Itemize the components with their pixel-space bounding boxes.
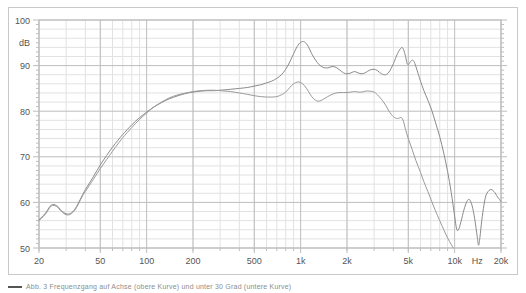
x-tick-label: 20k [494,256,509,266]
minor-horizontal-gridlines [39,29,501,239]
y-tick-label: 100 [15,16,30,26]
frequency-response-chart: 20501002005001k2k5k10k20k 5060708090100 … [9,8,517,274]
x-tick-label: 5k [404,256,414,266]
x-axis-unit-label: Hz [472,256,483,266]
x-tick-label: 1k [296,256,306,266]
y-axis-tick-labels: 5060708090100 [15,16,30,254]
y-axis-unit-label: dB [19,38,30,48]
x-tick-label: 2k [342,256,352,266]
figure-caption-text: Abb. 3 Frequenzgang auf Achse (obere Kur… [26,283,291,290]
axis-tick-marks [33,20,507,253]
y-tick-label: 90 [20,61,30,71]
x-tick-label: 50 [95,256,105,266]
y-tick-label: 60 [20,198,30,208]
major-vertical-gridlines [39,20,501,248]
x-tick-label: 500 [247,256,262,266]
x-tick-label: 200 [185,256,200,266]
curve-legend-swatch [8,286,22,288]
figure-caption: Abb. 3 Frequenzgang auf Achse (obere Kur… [8,281,518,293]
plot-border [39,20,501,248]
x-tick-label: 20 [34,256,44,266]
frequency-response-figure: 20501002005001k2k5k10k20k 5060708090100 … [0,0,526,293]
curve-on-axis [39,42,501,246]
curve-off-axis [39,82,453,248]
x-tick-label: 10k [447,256,462,266]
x-tick-label: 100 [139,256,154,266]
y-tick-label: 80 [20,107,30,117]
y-tick-label: 70 [20,152,30,162]
curve-group [39,42,501,248]
chart-frame: 20501002005001k2k5k10k20k 5060708090100 … [8,7,518,275]
x-axis-tick-labels: 20501002005001k2k5k10k20k [34,256,509,266]
minor-vertical-gridlines [39,20,501,248]
y-tick-label: 50 [20,244,30,254]
major-horizontal-gridlines [39,20,501,248]
